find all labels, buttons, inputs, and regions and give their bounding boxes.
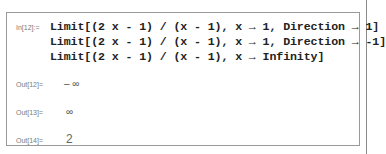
- input-line-3[interactable]: Limit[(2 x - 1) / (x - 1), x → Infinity]: [50, 50, 324, 63]
- output-value-13: ∞: [66, 106, 73, 117]
- notebook-cell-group: In[12]:= Limit[(2 x - 1) / (x - 1), x → …: [6, 12, 360, 146]
- output-value-12: – ∞: [64, 78, 79, 89]
- input-line-1[interactable]: Limit[(2 x - 1) / (x - 1), x → 1, Direct…: [50, 20, 379, 33]
- input-label: In[12]:=: [16, 24, 40, 31]
- output-label-14: Out[14]=: [16, 137, 43, 144]
- output-label-12: Out[12]=: [16, 81, 43, 88]
- input-line-2[interactable]: Limit[(2 x - 1) / (x - 1), x → 1, Direct…: [50, 35, 386, 48]
- output-value-14: 2: [66, 132, 73, 146]
- output-label-13: Out[13]=: [16, 109, 43, 116]
